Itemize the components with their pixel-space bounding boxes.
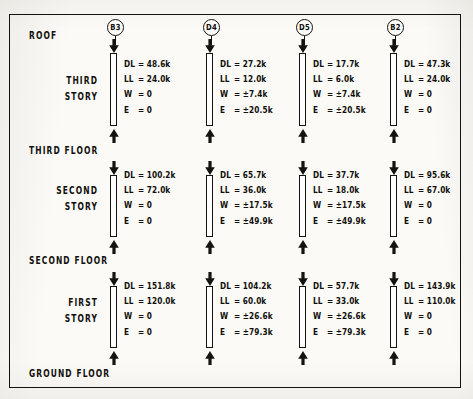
equals-sign: =: [137, 104, 147, 115]
load-value-dl-d4-first-story: 104.2k: [243, 280, 272, 291]
load-block-d4-second-story: DL=65.7kLL=36.0kW=±17.5kE=±49.9k: [220, 167, 273, 228]
load-value-w-b2-third-story: 0: [427, 88, 432, 99]
column-member-b2-first-story[interactable]: [390, 286, 397, 348]
load-key-ll: LL: [313, 73, 326, 84]
load-row-w-d4-third-story: W=±7.4k: [220, 86, 273, 101]
grid-bubble-b3[interactable]: B3: [107, 19, 124, 36]
load-row-w-b2-third-story: W=0: [404, 86, 450, 101]
load-value-ll-d4-second-story: 36.0k: [243, 184, 267, 195]
equals-sign: =: [417, 169, 427, 180]
load-value-dl-b3-second-story: 100.2k: [147, 169, 176, 180]
level-label-ground-floor: GROUND FLOOR: [29, 368, 110, 378]
load-key-ll: LL: [404, 184, 417, 195]
load-block-d5-second-story: DL=37.7kLL=18.0kW=±17.5kE=±49.9k: [313, 167, 366, 228]
reaction-arrow-up-b2-third-story: [388, 128, 400, 147]
load-row-e-b3-second-story: E=0: [124, 213, 176, 228]
load-row-dl-d4-third-story: DL=27.2k: [220, 56, 273, 71]
column-member-d4-first-story[interactable]: [206, 286, 213, 348]
equals-sign: =: [326, 169, 336, 180]
reaction-arrow-up-d5-first-story: [297, 350, 309, 369]
load-row-e-d5-second-story: E=±49.9k: [313, 213, 366, 228]
equals-sign: =: [326, 280, 336, 291]
load-key-e: E: [404, 215, 417, 226]
load-key-ll: LL: [220, 295, 233, 306]
load-value-ll-b2-third-story: 24.0k: [427, 73, 451, 84]
load-key-dl: DL: [220, 169, 233, 180]
load-row-dl-b2-first-story: DL=143.9k: [404, 278, 456, 293]
column-member-d4-second-story[interactable]: [206, 175, 213, 237]
column-member-b3-third-story[interactable]: [110, 53, 117, 126]
load-key-ll: LL: [404, 295, 417, 306]
figure-sheet: ROOF THIRD FLOOR SECOND FLOOR GROUND FLO…: [0, 0, 473, 399]
equals-sign: =: [233, 199, 243, 210]
column-member-b2-second-story[interactable]: [390, 175, 397, 237]
load-value-dl-d5-third-story: 17.7k: [336, 58, 360, 69]
grid-bubble-b3-label: B3: [110, 23, 120, 33]
load-row-ll-d5-second-story: LL=18.0k: [313, 182, 366, 197]
equals-sign: =: [417, 310, 427, 321]
load-value-w-d4-first-story: ±26.6k: [243, 310, 273, 321]
equals-sign: =: [233, 88, 243, 99]
load-value-e-d5-third-story: ±20.5k: [336, 104, 366, 115]
load-key-e: E: [313, 104, 326, 115]
column-member-b3-first-story[interactable]: [110, 286, 117, 348]
load-row-e-d4-second-story: E=±49.9k: [220, 213, 273, 228]
column-member-d5-third-story[interactable]: [299, 53, 306, 126]
equals-sign: =: [326, 184, 336, 195]
load-key-w: W: [313, 310, 326, 321]
equals-sign: =: [233, 169, 243, 180]
grid-bubble-d4[interactable]: D4: [203, 19, 220, 36]
load-row-dl-d5-second-story: DL=37.7k: [313, 167, 366, 182]
load-value-dl-b2-third-story: 47.3k: [427, 58, 451, 69]
load-key-w: W: [220, 88, 233, 99]
equals-sign: =: [233, 58, 243, 69]
column-member-d5-second-story[interactable]: [299, 175, 306, 237]
load-key-dl: DL: [313, 58, 326, 69]
load-value-w-d5-third-story: ±7.4k: [336, 88, 361, 99]
equals-sign: =: [326, 326, 336, 337]
load-key-w: W: [124, 88, 137, 99]
load-row-e-d5-first-story: E=±79.3k: [313, 324, 366, 339]
load-row-dl-b3-third-story: DL=48.6k: [124, 56, 170, 71]
equals-sign: =: [417, 104, 427, 115]
column-member-d5-first-story[interactable]: [299, 286, 306, 348]
grid-bubble-d5[interactable]: D5: [296, 19, 313, 36]
column-member-b3-second-story[interactable]: [110, 175, 117, 237]
reaction-arrow-up-d5-third-story: [297, 128, 309, 147]
load-key-dl: DL: [220, 58, 233, 69]
equals-sign: =: [137, 88, 147, 99]
equals-sign: =: [326, 295, 336, 306]
load-key-w: W: [124, 310, 137, 321]
reaction-arrow-up-b2-first-story: [388, 350, 400, 369]
load-row-w-d5-third-story: W=±7.4k: [313, 86, 366, 101]
load-row-dl-d4-first-story: DL=104.2k: [220, 278, 273, 293]
load-value-ll-b2-second-story: 67.0k: [427, 184, 451, 195]
load-value-dl-d4-second-story: 65.7k: [243, 169, 267, 180]
load-key-ll: LL: [124, 73, 137, 84]
load-value-w-d4-third-story: ±7.4k: [243, 88, 268, 99]
grid-bubble-b2[interactable]: B2: [387, 19, 404, 36]
reaction-arrow-up-b3-first-story: [108, 350, 120, 369]
load-row-e-b2-second-story: E=0: [404, 213, 450, 228]
load-row-w-b3-third-story: W=0: [124, 86, 170, 101]
load-row-dl-b2-second-story: DL=95.6k: [404, 167, 450, 182]
reaction-arrow-up-d4-second-story: [204, 239, 216, 258]
load-key-dl: DL: [220, 280, 233, 291]
load-row-w-d4-first-story: W=±26.6k: [220, 308, 273, 323]
load-value-e-b3-first-story: 0: [147, 326, 152, 337]
equals-sign: =: [233, 184, 243, 195]
load-block-b3-third-story: DL=48.6kLL=24.0kW=0E=0: [124, 56, 170, 117]
equals-sign: =: [326, 215, 336, 226]
load-key-dl: DL: [313, 169, 326, 180]
column-member-b2-third-story[interactable]: [390, 53, 397, 126]
load-value-e-b3-second-story: 0: [147, 215, 152, 226]
equals-sign: =: [417, 295, 427, 306]
column-member-d4-third-story[interactable]: [206, 53, 213, 126]
load-row-w-d5-first-story: W=±26.6k: [313, 308, 366, 323]
load-value-ll-d5-first-story: 33.0k: [336, 295, 360, 306]
load-block-d4-third-story: DL=27.2kLL=12.0kW=±7.4kE=±20.5k: [220, 56, 273, 117]
load-key-e: E: [220, 215, 233, 226]
equals-sign: =: [137, 73, 147, 84]
load-key-e: E: [313, 326, 326, 337]
load-row-w-d5-second-story: W=±17.5k: [313, 197, 366, 212]
